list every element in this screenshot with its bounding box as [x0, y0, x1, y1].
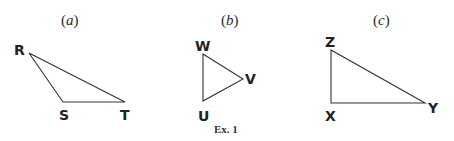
panel-b-label: (b) — [221, 12, 239, 29]
vertex-label-z: Z — [325, 34, 335, 50]
panel-a: (a) R S T — [14, 12, 130, 123]
triangle-wvu — [203, 54, 243, 101]
panel-c: (c) Z X Y — [325, 12, 439, 124]
panel-c-label: (c) — [373, 12, 390, 29]
vertex-label-r: R — [14, 42, 25, 58]
vertex-label-v: V — [245, 71, 256, 87]
figure-caption: Ex. 1 — [214, 123, 238, 135]
vertex-label-u: U — [198, 108, 209, 124]
panel-a-label: (a) — [61, 12, 79, 29]
vertex-label-y: Y — [427, 100, 439, 116]
vertex-label-t: T — [120, 107, 130, 123]
panel-b: (b) W V U Ex. 1 — [195, 12, 256, 135]
triangles-diagram: (a) R S T (b) W V U Ex. 1 (c) Z X Y — [0, 0, 454, 141]
vertex-label-x: X — [325, 108, 336, 124]
vertex-label-w: W — [195, 38, 210, 54]
vertex-label-s: S — [59, 107, 69, 123]
triangle-zxy — [331, 50, 425, 103]
figure-ex-1: (a) R S T (b) W V U Ex. 1 (c) Z X Y — [0, 0, 454, 141]
triangle-rst — [29, 53, 125, 102]
